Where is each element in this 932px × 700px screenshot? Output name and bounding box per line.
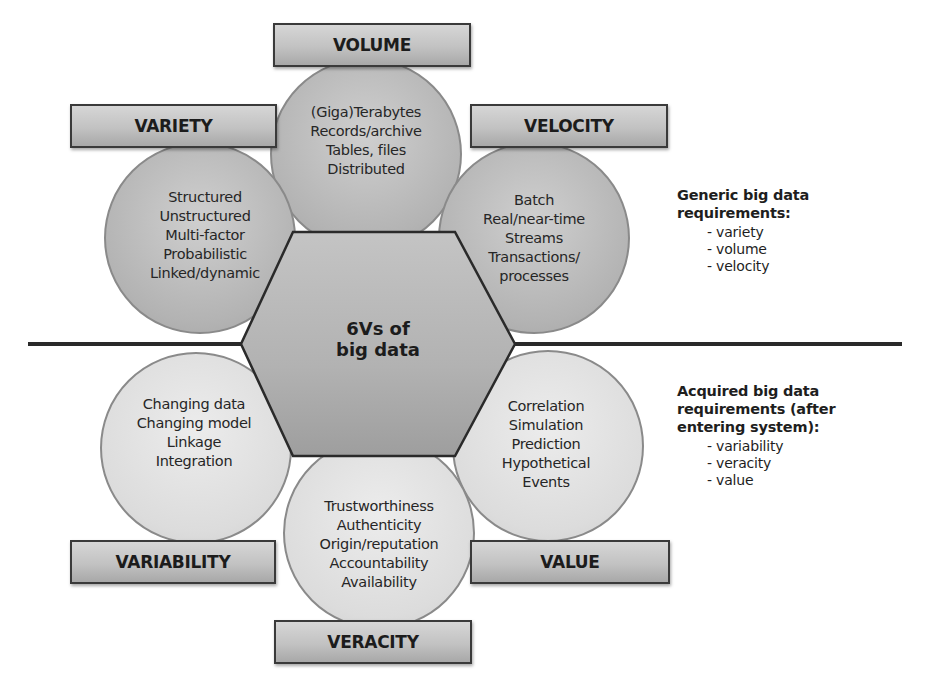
generic-item: - variety: [707, 224, 809, 241]
center-label-line1: 6Vs of: [298, 318, 458, 339]
generic-title-line2: requirements:: [677, 204, 809, 222]
volume-label: VOLUME: [273, 23, 471, 67]
veracity-label: VERACITY: [274, 620, 472, 664]
generic-title-line1: Generic big data: [677, 186, 809, 204]
acquired-item: - variability: [707, 438, 835, 455]
generic-item: - velocity: [707, 258, 809, 275]
generic-requirements: Generic big data requirements: - variety…: [677, 186, 809, 275]
variability-label: VARIABILITY: [70, 540, 276, 584]
acquired-item: - value: [707, 472, 835, 489]
generic-list: - variety - volume - velocity: [677, 224, 809, 275]
variety-label: VARIETY: [70, 104, 277, 148]
velocity-label: VELOCITY: [470, 104, 668, 148]
center-label: 6Vs of big data: [298, 318, 458, 360]
acquired-title-line3: entering system):: [677, 418, 835, 436]
acquired-requirements: Acquired big data requirements (after en…: [677, 382, 835, 489]
acquired-title-line2: requirements (after: [677, 400, 835, 418]
generic-item: - volume: [707, 241, 809, 258]
acquired-title-line1: Acquired big data: [677, 382, 835, 400]
acquired-list: - variability - veracity - value: [677, 438, 835, 489]
value-label: VALUE: [470, 540, 670, 584]
center-label-line2: big data: [298, 339, 458, 360]
acquired-item: - veracity: [707, 455, 835, 472]
